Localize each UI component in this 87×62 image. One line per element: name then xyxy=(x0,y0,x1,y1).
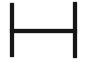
h-figure xyxy=(0,0,87,62)
h-crossbar xyxy=(10,29,77,33)
h-right-vertical-bar xyxy=(73,2,77,58)
